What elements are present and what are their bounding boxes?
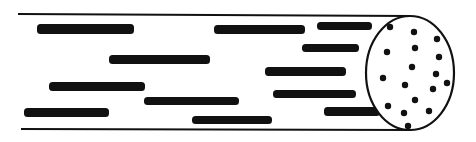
fiber-strand [214, 25, 305, 34]
fiber-cross-section-dot [402, 82, 408, 88]
fiber-strands [24, 22, 380, 124]
fiber-cross-section-dot [380, 75, 386, 81]
fiber-cross-section-dot [387, 24, 393, 30]
fiber-cross-section-dot [436, 54, 442, 60]
cylinder-illustration [0, 0, 476, 142]
fiber-cross-section-dot [433, 71, 439, 77]
cross-section-face [366, 16, 454, 130]
fiber-cross-section-dot [434, 36, 440, 42]
fiber-strand [265, 67, 346, 76]
fiber-cross-section-dot [384, 49, 390, 55]
fiber-cross-section-dot [405, 123, 411, 129]
fiber-strand [317, 22, 372, 30]
fiber-cross-section-dot [430, 86, 436, 92]
fiber-strand [144, 97, 239, 105]
fiber-strand [109, 55, 210, 64]
fiber-cross-section-dot [426, 108, 432, 114]
fiber-strand [24, 108, 109, 117]
fiber-strand [324, 107, 380, 116]
fiber-strand [192, 116, 272, 124]
fiber-bundle-diagram [0, 0, 476, 142]
end-face-ellipse [366, 16, 454, 130]
fiber-cross-section-dot [412, 45, 418, 51]
fiber-cross-section-dot [412, 97, 418, 103]
bottom-edge-line [21, 129, 410, 130]
fiber-cross-section-dot [385, 103, 391, 109]
fiber-strand [37, 24, 134, 34]
fiber-cross-section-dot [401, 110, 407, 116]
fiber-strand [302, 44, 359, 52]
fiber-cross-section-dot [444, 80, 450, 86]
fiber-cross-section-dot [409, 64, 415, 70]
fiber-strand [273, 90, 356, 98]
fiber-cross-section-dot [411, 29, 417, 35]
top-edge-line [18, 14, 410, 16]
fiber-strand [49, 82, 145, 91]
